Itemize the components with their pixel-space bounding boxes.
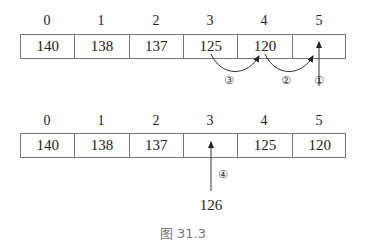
- figure-caption: 图 31.3: [0, 223, 366, 242]
- step-2-label: ②: [281, 74, 291, 87]
- step-4-label: ④: [218, 168, 228, 181]
- step-1-label: ①: [314, 74, 324, 87]
- step-3-label: ③: [224, 74, 234, 87]
- inserted-value: 126: [191, 196, 231, 214]
- step-labels: ③ ② ① ④: [0, 0, 366, 244]
